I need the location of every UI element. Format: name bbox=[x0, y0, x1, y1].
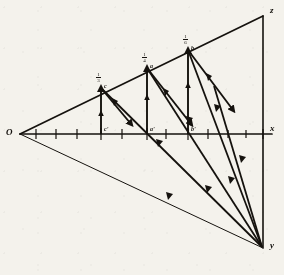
fraction-denominator: 6 bbox=[183, 40, 188, 45]
upper-diagonal-arrows bbox=[101, 50, 233, 124]
point-label-c: c bbox=[104, 83, 107, 89]
z-axis-label: z bbox=[270, 6, 274, 15]
figure-root: O x y z c a b c' a' b' 1 3 1 4 1 6 bbox=[0, 0, 284, 275]
x-axis-label: x bbox=[270, 124, 275, 133]
figure-caption bbox=[0, 267, 284, 275]
diagonal-b-to-axis bbox=[188, 50, 233, 110]
upper-diagonal-mid-arrows bbox=[112, 73, 212, 106]
geometry-diagram bbox=[0, 0, 284, 275]
y-axis-label: y bbox=[270, 241, 274, 250]
point-label-b-prime: b' bbox=[191, 126, 196, 132]
origin-label: O bbox=[6, 128, 13, 137]
line-origin-to-z bbox=[20, 16, 263, 134]
point-label-c-prime: c' bbox=[104, 126, 108, 132]
point-label-a: a bbox=[150, 63, 153, 69]
fraction-denominator: 3 bbox=[96, 78, 101, 83]
fraction-denominator: 4 bbox=[142, 58, 147, 63]
point-label-b: b bbox=[191, 45, 194, 51]
point-label-a-prime: a' bbox=[150, 126, 155, 132]
diagonal-a-to-axis bbox=[147, 68, 191, 124]
fan-lines-to-y bbox=[101, 50, 262, 247]
fraction-label-a: 1 4 bbox=[142, 52, 147, 63]
fraction-label-b: 1 6 bbox=[183, 34, 188, 45]
fraction-label-c: 1 3 bbox=[96, 72, 101, 83]
